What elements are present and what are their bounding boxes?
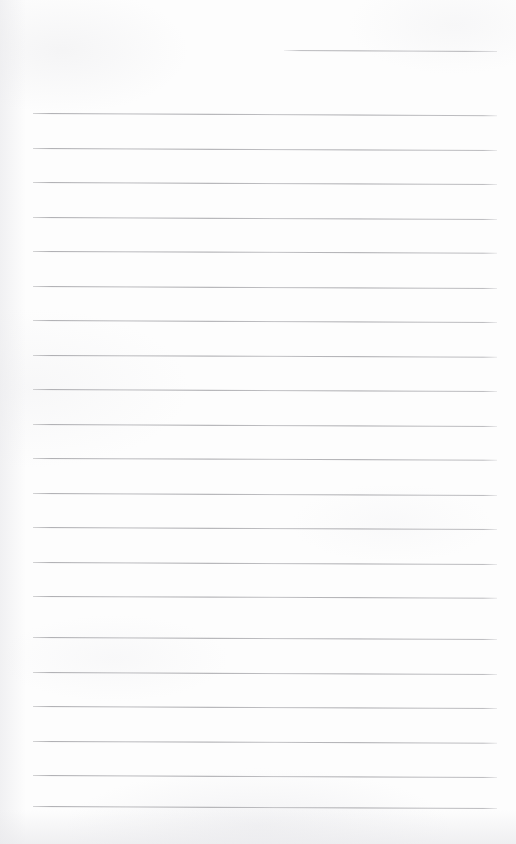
ruled-line xyxy=(284,50,497,52)
ruled-line xyxy=(33,424,497,427)
ruled-line xyxy=(33,286,497,289)
ruled-line xyxy=(33,741,497,744)
ruled-line xyxy=(33,527,497,530)
ruled-line xyxy=(33,672,497,675)
ruled-line xyxy=(33,458,497,461)
ruled-line xyxy=(33,217,497,220)
ruled-line xyxy=(33,596,497,599)
ruled-line xyxy=(33,775,497,778)
ruled-line xyxy=(33,355,497,358)
ruled-line xyxy=(33,251,497,254)
ruled-line xyxy=(33,320,497,323)
ruled-line xyxy=(33,706,497,709)
page-left-edge-shading xyxy=(0,0,26,844)
ruled-line xyxy=(33,113,497,116)
ruled-line xyxy=(33,637,497,640)
ruled-line xyxy=(33,182,497,185)
page-bottom-edge-shading xyxy=(0,810,516,844)
ruled-line xyxy=(33,493,497,496)
ruled-line xyxy=(33,806,497,809)
ruled-line xyxy=(33,562,497,565)
notebook-page xyxy=(0,0,516,844)
ruled-line xyxy=(33,389,497,392)
ruled-line xyxy=(33,148,497,151)
